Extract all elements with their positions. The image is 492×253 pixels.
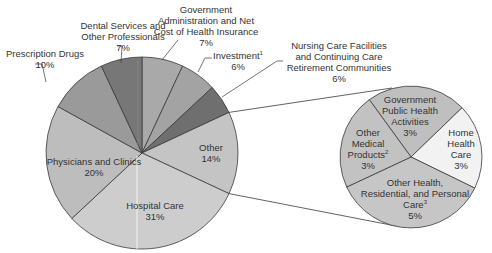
label-other-health: Other Health, Residential, and Personal …: [355, 177, 475, 221]
label-hospital: Hospital Care 31%: [120, 200, 190, 222]
label-nursing: Nursing Care Facilities and Continuing C…: [284, 40, 394, 84]
label-investment: Investment1 6%: [208, 50, 268, 72]
label-physicians: Physicians and Clinics 20%: [44, 156, 144, 178]
label-other: Other 14%: [195, 142, 227, 164]
label-home-health: Home Health Care 3%: [441, 127, 481, 171]
label-prescription: Prescription Drugs 10%: [5, 48, 85, 70]
label-other-medical: Other Medical Products2 3%: [343, 127, 393, 171]
